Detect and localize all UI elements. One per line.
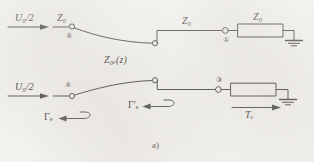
reflection-coefficient-label: Γₑ bbox=[44, 112, 53, 122]
top-source-label: U₀/2 bbox=[15, 13, 34, 23]
taper-impedance-label: Z₀ₑ(z) bbox=[104, 55, 127, 65]
top-source-arrowhead bbox=[40, 24, 49, 30]
reflection-arrow-hook bbox=[63, 112, 90, 119]
top-taper-line bbox=[75, 28, 152, 43]
node-3-terminal bbox=[216, 87, 222, 93]
reflection-coefficient-prime-label: Γ'ₑ bbox=[128, 100, 138, 110]
top-right-impedance-label: Z₀ bbox=[182, 16, 191, 26]
node-label-3: ③ bbox=[214, 76, 223, 85]
node-4-terminal bbox=[69, 93, 74, 98]
node-1-terminal bbox=[223, 28, 229, 34]
top-ground-lead bbox=[283, 31, 294, 41]
bottom-load-resistor bbox=[231, 83, 276, 96]
bottom-taper-line bbox=[75, 81, 152, 96]
top-left-impedance-label: Z₀ bbox=[57, 13, 66, 23]
top-right-line bbox=[157, 31, 222, 43]
transmission-coefficient-label: Tₑ bbox=[245, 110, 253, 120]
bottom-ground-lead bbox=[276, 90, 288, 100]
top-load-resistor bbox=[238, 24, 283, 37]
node-2-terminal bbox=[69, 24, 74, 29]
reflection-prime-arrow-hook bbox=[147, 100, 174, 107]
transmission-arrowhead bbox=[272, 105, 281, 111]
node-label-4: ④ bbox=[63, 81, 72, 90]
bottom-source-arrowhead bbox=[40, 93, 49, 99]
node-label-1: ① bbox=[221, 36, 230, 45]
reflection-arrowhead bbox=[59, 115, 67, 121]
reflection-prime-arrowhead bbox=[143, 103, 151, 109]
bottom-right-line bbox=[157, 82, 215, 90]
bottom-source-label: U₀/2 bbox=[15, 82, 34, 92]
node-label-2: ② bbox=[64, 32, 73, 41]
schematic-drawing bbox=[0, 0, 314, 162]
top-load-impedance-label: Z₀ bbox=[253, 12, 262, 22]
figure-caption: a) bbox=[152, 140, 159, 150]
circuit-figure: U₀/2 Z₀ Z₀ Z₀ Z₀ₑ(z) U₀/2 Γₑ Γ'ₑ Tₑ ② ① … bbox=[0, 0, 314, 162]
